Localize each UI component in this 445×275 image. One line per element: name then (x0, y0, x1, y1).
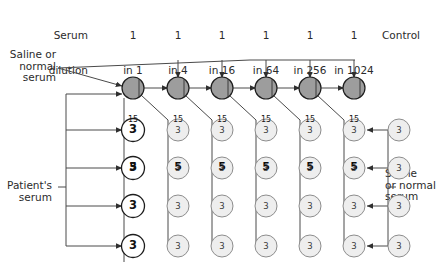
well-r4-c3 (211, 235, 233, 257)
well-r2-c4 (255, 157, 277, 179)
top-well-col5 (299, 77, 321, 99)
well-r3-c4 (255, 195, 277, 217)
well-r1-c5 (299, 119, 321, 141)
top-well-col4 (255, 77, 277, 99)
well-r1-c2 (167, 119, 189, 141)
well-r3-c6 (343, 195, 365, 217)
well-r2-c7 (388, 157, 410, 179)
well-r2-c2 (167, 157, 189, 179)
top-well-col3 (211, 77, 233, 99)
well-r4-c7 (388, 235, 410, 257)
well-r3-c5 (299, 195, 321, 217)
well-r4-c2 (167, 235, 189, 257)
well-r1-c7 (388, 119, 410, 141)
well-r1-c6 (343, 119, 365, 141)
well-r1-c3 (211, 119, 233, 141)
well-r4-c5 (299, 235, 321, 257)
well-r2-c5 (299, 157, 321, 179)
well-grid (122, 119, 411, 258)
well-r4-c4 (255, 235, 277, 257)
well-r3-c7 (388, 195, 410, 217)
well-r2-c3 (211, 157, 233, 179)
top-well-col6 (343, 77, 365, 99)
well-r1-c4 (255, 119, 277, 141)
diagram-canvas: Serum dilution 1 in 1 1 in 4 1 in 16 1 i… (0, 0, 445, 275)
well-r1-c1 (122, 119, 145, 142)
well-r2-c1 (122, 157, 145, 180)
well-r3-c2 (167, 195, 189, 217)
top-well-col1 (122, 77, 144, 99)
well-r3-c3 (211, 195, 233, 217)
top-well-col2 (167, 77, 189, 99)
well-r4-c6 (343, 235, 365, 257)
well-r4-c1 (122, 235, 145, 258)
well-r2-c6 (343, 157, 365, 179)
well-r3-c1 (122, 195, 145, 218)
diagram-linework (0, 0, 445, 275)
